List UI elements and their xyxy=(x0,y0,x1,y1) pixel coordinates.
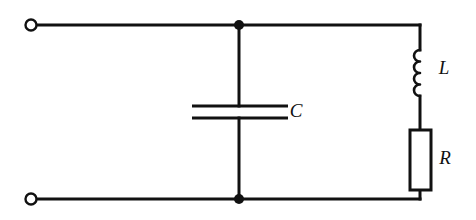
terminal-top-left[interactable] xyxy=(26,20,37,31)
circuit-schematic-canvas: C L R xyxy=(0,0,476,220)
resistor-box-symbol xyxy=(410,130,431,190)
inductor-label: L xyxy=(438,57,450,78)
terminal-bottom-left[interactable] xyxy=(26,194,37,205)
junction-dot-bottom xyxy=(234,194,244,204)
inductor-coil-symbol xyxy=(414,50,420,96)
capacitor-label: C xyxy=(290,100,303,121)
terminal-group xyxy=(26,20,37,205)
resistor-label: R xyxy=(438,147,451,168)
wire-group xyxy=(36,25,420,199)
junction-dot-top xyxy=(234,20,244,30)
circuit-diagram: C L R xyxy=(0,0,476,220)
capacitor-symbol xyxy=(192,106,288,118)
